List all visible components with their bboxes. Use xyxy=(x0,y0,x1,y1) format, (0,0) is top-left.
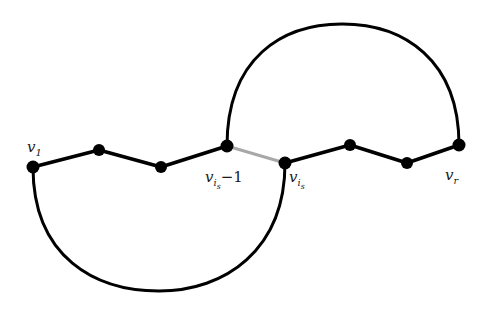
vertex-v7 xyxy=(401,157,413,169)
vertex-v2 xyxy=(93,144,105,156)
vertex-vis_1 xyxy=(221,140,234,153)
vertex-v1 xyxy=(27,161,40,174)
graph-diagram: v1vis−1visvr xyxy=(0,0,488,316)
vertex-v6 xyxy=(344,139,356,151)
figure-canvas: v1vis−1visvr xyxy=(0,0,488,316)
vertex-v3 xyxy=(155,161,167,173)
vertex-vr xyxy=(453,139,466,152)
